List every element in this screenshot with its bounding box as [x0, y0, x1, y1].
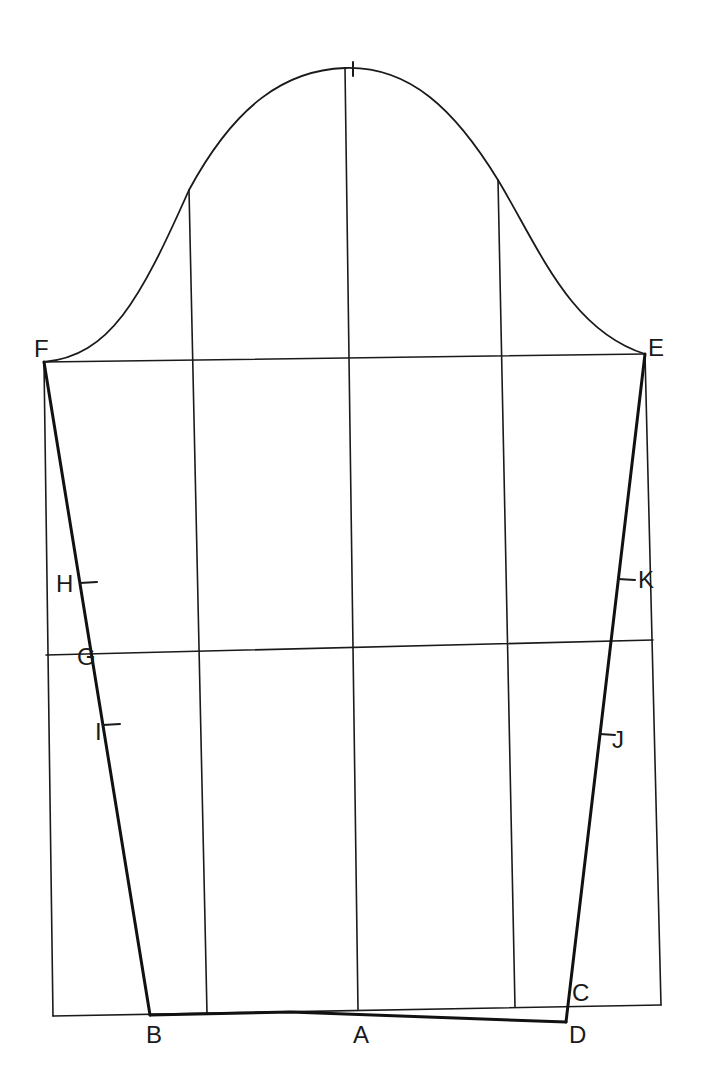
label-J: J	[612, 726, 624, 753]
label-C: C	[572, 979, 589, 1006]
label-E: E	[648, 334, 664, 361]
back-underarm-seam	[44, 362, 150, 1015]
label-B: B	[146, 1021, 162, 1048]
H-tick	[80, 582, 97, 583]
label-H: H	[56, 570, 73, 597]
I-tick	[103, 724, 120, 725]
elbow-line	[46, 640, 653, 655]
front-underarm-seam	[566, 354, 645, 1022]
label-I: I	[95, 718, 102, 745]
label-F: F	[34, 335, 49, 362]
label-D: D	[569, 1021, 586, 1048]
frame-left-line	[44, 362, 53, 1016]
center-grain-line	[345, 68, 358, 1010]
sleeve-pattern-diagram: F E H G I K J B A C D	[0, 0, 702, 1089]
biceps-line	[44, 354, 645, 362]
label-G: G	[77, 643, 96, 670]
left-quarter-line	[189, 190, 207, 1013]
label-A: A	[353, 1021, 369, 1048]
right-quarter-line	[498, 180, 515, 1007]
K-tick	[618, 579, 635, 580]
sleeve-cap-curve	[44, 68, 645, 362]
frame-right-line	[645, 354, 661, 1005]
label-K: K	[638, 566, 654, 593]
